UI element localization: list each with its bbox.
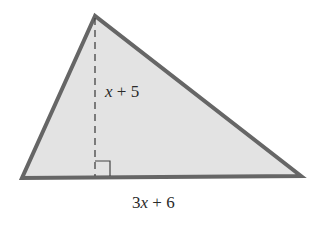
base-rest: + 6 bbox=[148, 193, 175, 212]
triangle bbox=[22, 16, 301, 178]
base-label: 3x + 6 bbox=[132, 193, 175, 213]
height-label: x + 5 bbox=[105, 82, 139, 102]
height-rest: + 5 bbox=[113, 82, 140, 101]
base-var: x bbox=[141, 193, 149, 212]
base-coef: 3 bbox=[132, 193, 141, 212]
height-var: x bbox=[105, 82, 113, 101]
